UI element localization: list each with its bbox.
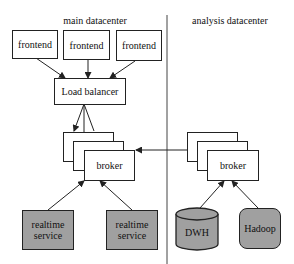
- analysis-broker-node: broker: [207, 150, 259, 181]
- main-broker-node: broker: [84, 150, 135, 181]
- frontend-node-3: frontend: [116, 30, 162, 61]
- dwh-label: DWH: [176, 227, 218, 238]
- frontend-node-1: frontend: [12, 30, 58, 59]
- main-datacenter-label: main datacenter: [55, 15, 135, 26]
- frontend-node-2: frontend: [63, 30, 110, 60]
- load-balancer-node: Load balancer: [54, 78, 126, 105]
- analysis-datacenter-label: analysis datacenter: [185, 15, 275, 26]
- arrow-realtime1-to-broker: [48, 181, 84, 210]
- realtime-service-node-2: realtime service: [106, 210, 158, 250]
- arrow-lb-to-broker: [74, 104, 84, 131]
- line-lb-to-broker-3: [84, 104, 94, 131]
- arrow-hadoop-to-broker: [232, 181, 258, 208]
- architecture-diagram: main datacenter analysis datacenter fron…: [0, 0, 294, 264]
- arrow-realtime2-to-broker: [100, 181, 132, 210]
- hadoop-node: Hadoop: [239, 208, 281, 249]
- arrow-frontend3-to-lb: [110, 61, 135, 78]
- realtime-service-node-1: realtime service: [22, 210, 74, 250]
- arrow-dwh-to-broker: [200, 181, 224, 208]
- arrow-frontend1-to-lb: [36, 58, 65, 78]
